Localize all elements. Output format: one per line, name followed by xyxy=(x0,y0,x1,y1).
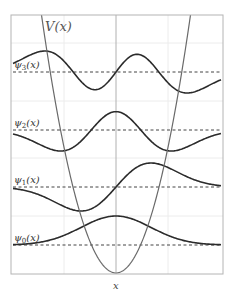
harmonic-oscillator-diagram: V(x) ψ3(x) ψ2(x) ψ1(x) ψ0(x) x xyxy=(0,0,232,301)
psi1-label: ψ1(x) xyxy=(14,174,40,187)
potential-label: V(x) xyxy=(45,19,72,34)
x-axis-label: x xyxy=(113,280,119,291)
wavefunction-psi2 xyxy=(13,112,221,151)
psi-labels: ψ3(x) ψ2(x) ψ1(x) ψ0(x) xyxy=(14,59,40,245)
psi3-label: ψ3(x) xyxy=(14,59,40,72)
wavefunction-psi0 xyxy=(13,216,221,245)
psi2-label: ψ2(x) xyxy=(14,117,40,130)
